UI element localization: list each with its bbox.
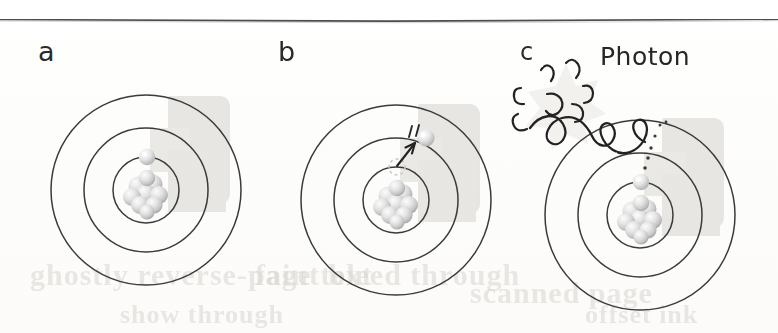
- nucleus-a: [123, 170, 168, 220]
- figure-root: ghostly reverse-page text faint bleed th…: [0, 0, 778, 333]
- nucleus-c: [617, 195, 662, 245]
- panel-label-b: b: [278, 36, 295, 67]
- electron-b: [417, 129, 434, 146]
- nucleus-b: [373, 180, 418, 230]
- electron-c: [633, 174, 649, 190]
- panel-label-a: a: [38, 36, 55, 67]
- panel-label-c: c: [520, 38, 533, 66]
- top-rule: [0, 19, 778, 23]
- motion-ticks-b: [409, 125, 419, 137]
- electron-a: [139, 149, 155, 165]
- photon-label: Photon: [600, 42, 690, 71]
